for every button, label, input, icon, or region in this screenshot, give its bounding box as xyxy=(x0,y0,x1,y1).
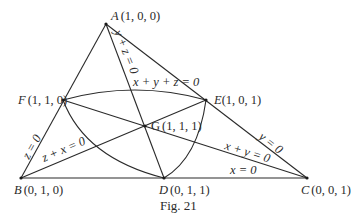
point-A xyxy=(104,22,107,25)
line-AD xyxy=(106,24,164,178)
point-E xyxy=(204,98,207,101)
label-line-BC: x = 0 xyxy=(229,163,257,177)
point-D xyxy=(162,176,165,179)
label-point-G: G(1, 1, 1) xyxy=(151,119,202,133)
point-B xyxy=(19,176,22,179)
label-point-D: D(0, 1, 1) xyxy=(158,183,210,197)
label-line-AD: y + z = 0 xyxy=(110,26,141,76)
projective-triangle-diagram: A(1, 0, 0) F(1, 1, 0) E(1, 0, 1) G(1, 1,… xyxy=(0,0,354,223)
point-G xyxy=(143,124,146,127)
label-point-B: B(0, 1, 0) xyxy=(14,183,63,197)
label-line-AB: z = 0 xyxy=(19,131,45,162)
point-C xyxy=(305,176,308,179)
label-line-conic: x + y + z = 0 xyxy=(132,75,200,89)
label-point-A: A(1, 0, 0) xyxy=(110,9,160,23)
label-point-E: E(1, 0, 1) xyxy=(213,93,261,107)
label-point-C: C(0, 0, 1) xyxy=(301,183,351,197)
figure-caption: Fig. 21 xyxy=(160,198,197,213)
label-point-F: F(1, 1, 0) xyxy=(17,93,67,107)
